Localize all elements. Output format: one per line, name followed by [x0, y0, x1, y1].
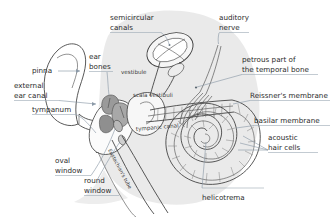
auditory-nerve-label-line1: auditory: [219, 13, 250, 22]
pinna-label: pinna: [32, 66, 52, 75]
petrous-label-line2: the temporal bone: [242, 65, 309, 74]
oval-label-line1: oval: [55, 156, 70, 165]
ear-bones-label-line2: bones: [89, 62, 111, 71]
label-external-ear-canal: external ear canal: [14, 81, 96, 106]
label-vestibule: vestibule: [121, 69, 147, 75]
acoustic-label-line2: hair cells: [268, 143, 301, 152]
basilar-label: basilar membrane: [254, 116, 320, 125]
label-pinna: pinna: [32, 66, 80, 75]
helicotrema-label: helicotrema: [202, 193, 245, 202]
external-label-line2: ear canal: [14, 91, 47, 100]
scala-vestibuli-label: scala vestibuli: [133, 92, 173, 98]
ear-anatomy-diagram: semicircular canals auditory nerve petro…: [0, 0, 334, 217]
round-label-line2: window: [84, 186, 111, 195]
round-label-line1: round: [84, 176, 105, 185]
label-scala-vestibuli: scala vestibuli: [133, 92, 173, 98]
petrous-label-line1: petrous part of: [242, 55, 296, 64]
external-label-line1: external: [14, 81, 44, 90]
auditory-nerve-label-line2: nerve: [219, 23, 240, 32]
ear-bones-label-line1: ear: [89, 52, 101, 61]
reissner-label: Reissner's membrane: [250, 91, 328, 100]
semicircular-canals-label-line1: semicircular: [110, 13, 154, 22]
oval-label-line2: window: [55, 166, 82, 175]
semicircular-canals-label-line2: canals: [110, 23, 133, 32]
acoustic-label-line1: acoustic: [268, 133, 298, 142]
tympanum-label: tympanum: [32, 105, 71, 114]
vestibule-label: vestibule: [121, 69, 147, 75]
